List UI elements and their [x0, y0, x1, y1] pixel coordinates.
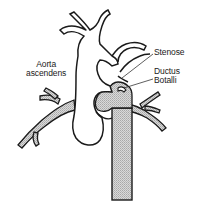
label-ductus-line2: Botalli — [154, 76, 180, 85]
left-subclavian-artery — [120, 54, 150, 72]
ascending-aorta — [60, 10, 118, 145]
aortic-arch-diagram — [0, 0, 204, 208]
descending-aorta — [112, 108, 132, 200]
label-stenose: Stenose — [154, 48, 185, 57]
ductus-leader-line — [124, 79, 153, 88]
label-aorta-ascendens: Aorta ascendens — [26, 60, 66, 78]
label-ductus-botalli: Ductus Botalli — [154, 67, 180, 85]
label-aorta-line2: ascendens — [26, 69, 66, 78]
left-pulmonary-artery — [18, 88, 75, 148]
